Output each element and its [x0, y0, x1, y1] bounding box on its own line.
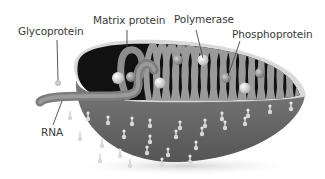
virion-diagram: Glycoprotein Matrix protein Polymerase P…	[0, 0, 325, 179]
leader-rna	[53, 101, 62, 125]
label-rna: RNA	[41, 126, 63, 138]
glycoprotein-spike	[98, 153, 102, 163]
phosphoprotein	[221, 73, 231, 83]
polymerase-protein	[155, 78, 166, 89]
phosphoprotein	[173, 55, 183, 65]
label-glycoprotein: Glycoprotein	[18, 25, 84, 37]
label-matrix-protein: Matrix protein	[93, 14, 165, 26]
phosphoprotein	[126, 72, 136, 82]
polymerase-protein	[240, 83, 251, 94]
phosphoprotein	[255, 68, 265, 78]
label-phosphoprotein: Phosphoprotein	[232, 28, 313, 40]
polymerase-protein	[112, 72, 124, 84]
nucleocapsid-coils	[121, 44, 300, 105]
glycoprotein-spike	[68, 110, 72, 120]
glycoprotein-spike	[100, 138, 104, 148]
leader-glycoprotein	[57, 40, 58, 80]
glycoprotein-spike	[118, 148, 122, 158]
label-polymerase: Polymerase	[174, 13, 234, 25]
glycoprotein-spike	[78, 131, 82, 141]
